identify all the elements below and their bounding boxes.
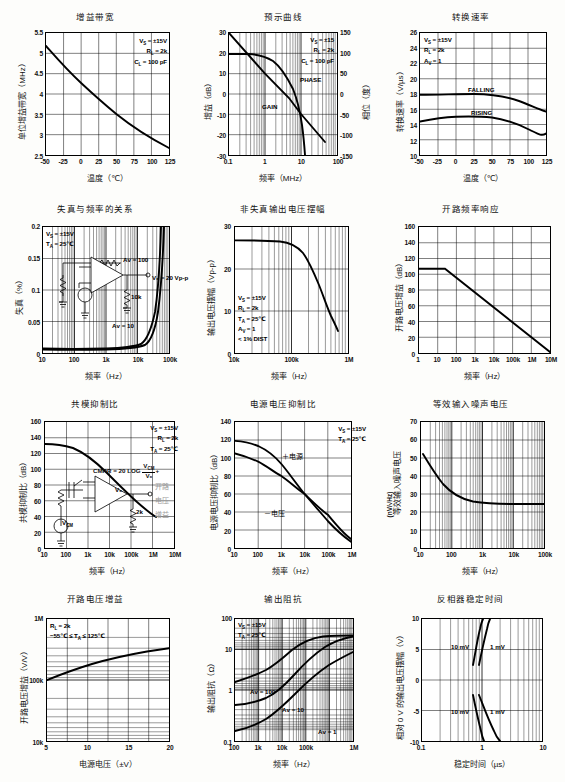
condition-1: RL = 2k [158, 434, 178, 441]
plot-area [421, 618, 543, 742]
chart-title: 非失真输出电压摆幅 [190, 202, 376, 214]
conditions-note: VS = ±15VRL = 2kTA = 25℃ [150, 424, 178, 455]
y-tick-labels: 160 140 120 100 80 60 40 20 0 [394, 226, 415, 354]
chart-gain-bandwidth: 增益带宽 单位增益带宽（MHz） 5.5 5 [0, 6, 190, 198]
datasheet-characteristics-page: 增益带宽 单位增益带宽（MHz） 5.5 5 [0, 0, 565, 782]
condition-2: TA = 25℃ [150, 445, 178, 452]
y-tick-labels: 0.2 0.15 0.1 0.05 0 [16, 226, 40, 354]
condition-0: VS = ±15V [150, 424, 178, 431]
conditions-note: VS = ±15VRL = 2kTA = 25℃AV = 1< 1% DIST [238, 294, 267, 343]
chart-title: 开路电压增益 [0, 592, 190, 604]
av100-label: Aᴠ = 100 [123, 256, 148, 263]
condition-0: VS = ±15V [46, 230, 74, 237]
condition-1: TA = 25℃ [338, 435, 366, 442]
y-tick-labels: 10 5 0 -5 -10 [398, 618, 419, 742]
y-tick-labels-right: 150 100 50 0 -50 -100 -150 [340, 32, 362, 156]
chart-input-noise-voltage: 等效输入噪声电压 等效输入噪声电压 (nV/√Hz) [376, 393, 565, 588]
condition-2: TA = 25℃ [238, 315, 266, 322]
condition-1: RL = 2k [147, 47, 167, 54]
condition-0: RL = 2k [50, 622, 70, 629]
conditions-note: VS = ±15VTA = 25℃ [238, 621, 266, 642]
x-axis-label: 频率（MHz） [228, 172, 338, 183]
lower-1mv-label: 1 mV [490, 708, 505, 715]
upper-10mv-label: 10 mV [451, 643, 469, 650]
y-tick-labels: 30 20 10 0 -10 -20 -30 [203, 32, 226, 156]
y-tick-labels: 5.5 5 4.5 4 3.5 3 2.5 [18, 32, 43, 156]
formula-tail: + [155, 467, 159, 474]
condition-1: TA = 25℃ [238, 631, 266, 638]
chart-title: 电源电压抑制比 [190, 397, 376, 409]
chart-psrr: 电源电压抑制比 电源电压抑制比（dB） 140 120 [190, 393, 376, 588]
chart-grid: 增益带宽 单位增益带宽（MHz） 5.5 5 [0, 6, 565, 782]
x-axis-label: 频率（Hz） [418, 370, 551, 381]
chart-title: 开路频率响应 [376, 202, 565, 214]
conditions-note: VS = ±15VRL = 2kAV = 1 [424, 36, 452, 67]
condition-0: VS = ±15V [139, 37, 167, 44]
upper-1mv-label: 1 mV [490, 643, 505, 650]
cmrr-formula: CMRR = 20 LOG VCM V₀ + [93, 463, 159, 479]
x-axis-label: 频率（Hz） [42, 370, 170, 381]
y-tick-labels: 26 24 22 20 18 16 14 12 10 [396, 32, 417, 156]
page-header-partial [42, 0, 192, 5]
av1-label: Aᴠ = 1 [318, 728, 336, 735]
y-tick-labels: 140 120 100 80 60 40 20 0 [211, 421, 231, 549]
condition-1: −55℃ ≤ TA ≤ 125℃ [50, 632, 105, 639]
positive-supply-label: ＋电源 [282, 451, 303, 461]
side-text-0: 开路 [155, 481, 169, 491]
condition-2: CL = 100 pF [134, 58, 167, 65]
conditions-note: VS = ±15RL = 2kCL = 100 pF [301, 36, 334, 67]
chart-title: 反相器稳定时间 [376, 592, 565, 604]
chart-cmrr: 共模抑制比 共模抑制比（dB） [0, 393, 190, 588]
y-axis-unit-label: (nV/√Hz) [386, 475, 393, 535]
resistor-10k-label: 10k [131, 293, 141, 300]
x-axis-label: 频率（Hz） [234, 758, 354, 769]
formula-fraction: VCM V₀ [142, 463, 155, 479]
conditions-note: RL = 2k−55℃ ≤ TA ≤ 125℃ [50, 622, 105, 643]
side-text-2: 增益 [155, 509, 169, 519]
vo-schematic-label: V₀ [115, 486, 122, 493]
formula-text: CMRR = 20 LOG [93, 467, 141, 474]
condition-3: AV = 1 [238, 325, 255, 332]
chart-output-impedance: 输出阻抗 输出阻抗（Ω） [190, 588, 376, 782]
formula-denominator: V₀ [142, 473, 155, 480]
plot-area [234, 421, 352, 549]
condition-2: AV = 1 [424, 57, 441, 64]
x-axis-label: 频率（Hz） [234, 370, 349, 381]
chart-title: 等效输入噪声电压 [376, 397, 565, 409]
condition-2: CL = 100 pF [301, 57, 334, 64]
chart-distortion-vs-frequency: 失真与频率的关系 失真（%） [0, 198, 190, 393]
av100-label: Aᴠ = 100 [250, 688, 275, 695]
x-axis-label: 温度（℃） [45, 172, 170, 183]
x-axis-label: 稳定时间（µs） [421, 758, 543, 769]
condition-4: < 1% DIST [238, 335, 267, 342]
vcm-schematic-label: VCM [62, 519, 73, 528]
chart-title: 失真与频率的关系 [0, 202, 190, 214]
chart-title: 转换速率 [376, 10, 565, 22]
chart-open-loop-frequency-response: 开路频率响应 开路电压增益（dB） 160 [376, 198, 565, 393]
condition-0: VS = ±15 [310, 36, 334, 43]
y-tick-labels: 70 60 50 40 30 20 10 0 [398, 421, 417, 549]
rl-2k-label: 2k [136, 508, 143, 515]
condition-1: RL = 2k [238, 304, 258, 311]
falling-curve-label: FALLING [468, 86, 494, 93]
chart-title: 预示曲线 [190, 10, 376, 22]
chart-inverter-settling-time: 反相器稳定时间 相对 0 V 的输出电压摆幅（V） [376, 588, 565, 782]
av10-label: Aᴠ = 10 [282, 706, 304, 713]
condition-0: VS = ±15V [338, 425, 366, 432]
lower-10mv-label: 10 mV [451, 708, 469, 715]
chart-undistorted-output-swing: 非失真输出电压摆幅 输出电压摆幅（Vp-p） [190, 198, 376, 393]
condition-0: VS = ±15V [424, 36, 452, 43]
conditions-note: VS = ±15VTA = 25℃ [46, 230, 74, 251]
side-text-1: 电压 [155, 495, 169, 505]
av10-label: Aᴠ = 10 [112, 322, 134, 329]
gain-curve-label: GAIN [262, 103, 277, 110]
chart-title: 增益带宽 [0, 10, 190, 22]
x-axis-label: 频率（Hz） [420, 565, 545, 576]
plot-area [418, 226, 551, 354]
x-axis-label: 频率（Hz） [44, 565, 175, 576]
condition-0: VS = ±15V [238, 294, 266, 301]
y-tick-labels: 1M 100k 10k [22, 618, 43, 742]
chart-title: 输出阻抗 [190, 592, 376, 604]
chart-title: 共模抑制比 [0, 397, 190, 409]
y-tick-labels: 100 10 1 0.1 [212, 618, 232, 742]
